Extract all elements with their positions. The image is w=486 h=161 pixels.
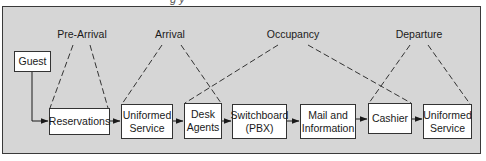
phase-label-occupancy: Occupancy xyxy=(267,28,320,40)
node-uniformed-service-arrival: Uniformed Service xyxy=(121,104,173,139)
node-desk-agents: Desk Agents xyxy=(184,103,222,139)
phase-link-occupancy-right xyxy=(308,45,411,103)
node-cashier: Cashier xyxy=(368,103,412,134)
phase-link-pre-arrival-left xyxy=(50,45,73,108)
node-guest: Guest xyxy=(14,51,51,72)
flow-arrow-guest-to-reservations xyxy=(32,71,48,121)
node-reservations: Reservations xyxy=(49,108,110,135)
phase-link-arrival-right xyxy=(181,45,221,103)
phase-label-arrival: Arrival xyxy=(155,28,185,40)
phase-link-departure-left xyxy=(369,45,410,103)
phase-link-departure-right xyxy=(428,45,470,104)
phase-label-departure: Departure xyxy=(396,28,443,40)
node-mail-information: Mail and Information xyxy=(300,104,356,139)
phase-link-pre-arrival-right xyxy=(90,45,108,108)
node-switchboard: Switchboard (PBX) xyxy=(232,104,287,139)
phase-link-arrival-left xyxy=(122,45,162,104)
phase-label-pre-arrival: Pre-Arrival xyxy=(57,28,107,40)
node-uniformed-service-departure: Uniformed Service xyxy=(423,104,472,139)
phase-link-occupancy-left xyxy=(185,45,278,103)
